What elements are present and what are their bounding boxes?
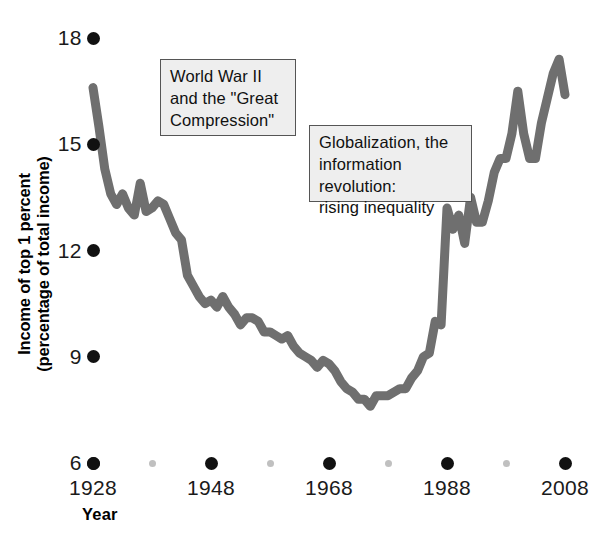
annotation-ww2-great-compression: World War II and the "Great Compression" [160,59,296,136]
x-tick-dot-major [205,457,218,470]
x-tick-dot-minor [267,460,274,467]
x-tick-label: 1948 [176,477,246,498]
y-tick-label: 12 [37,240,82,261]
y-tick-dot [87,244,100,257]
x-axis-title: Year [82,505,118,524]
y-tick-dot [87,350,100,363]
x-tick-dot-minor [149,460,156,467]
y-tick-label: 9 [37,346,82,367]
x-tick-dot-major [441,457,454,470]
x-tick-dot-major [87,457,100,470]
x-tick-label: 1968 [294,477,364,498]
x-tick-label: 1928 [58,477,128,498]
x-tick-dot-minor [385,460,392,467]
x-tick-dot-major [559,457,572,470]
y-tick-label: 6 [37,452,82,473]
x-tick-dot-minor [503,460,510,467]
y-tick-label: 15 [37,133,82,154]
x-tick-dot-major [323,457,336,470]
x-tick-label: 2008 [530,477,600,498]
y-tick-dot [87,138,100,151]
y-tick-dot [87,32,100,45]
y-tick-label: 18 [37,27,82,48]
x-tick-label: 1988 [412,477,482,498]
annotation-globalization-rising-inequality: Globalization, the information revolutio… [309,125,472,202]
chart-figure: Income of top 1 percent (percentage of t… [0,0,613,559]
